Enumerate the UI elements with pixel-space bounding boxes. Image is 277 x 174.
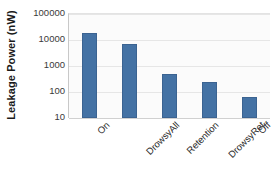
x-tick-label: DrowsyAll (145, 120, 182, 157)
bar-slot (230, 14, 270, 118)
bar-chart: Leakage Power (nW) 100000 10000 1000 100… (0, 0, 277, 174)
y-tick-label: 10000 (39, 34, 65, 44)
y-tick-label: 100 (49, 86, 65, 96)
bar[interactable] (122, 44, 137, 118)
y-axis-tick-labels: 100000 10000 1000 100 10 (22, 8, 68, 124)
y-axis-title-label: Leakage Power (nW) (5, 10, 17, 119)
y-tick-label: 1000 (44, 60, 65, 70)
bar[interactable] (82, 33, 97, 118)
x-tick-label: On (96, 120, 112, 136)
bar-slot (190, 14, 230, 118)
bar[interactable] (202, 82, 217, 118)
bars-layer (69, 14, 270, 118)
x-axis-tick-labels: OnDrowsyAllRetentionDrowsyRetOff (68, 118, 270, 174)
bar[interactable] (242, 97, 257, 118)
bar-slot (149, 14, 189, 118)
y-tick-label: 100000 (33, 8, 65, 18)
y-tick-label: 10 (54, 112, 65, 122)
bar-slot (69, 14, 109, 118)
y-axis-title: Leakage Power (nW) (0, 0, 22, 130)
x-tick-label: Retention (184, 120, 219, 155)
bar[interactable] (162, 74, 177, 118)
bar-slot (109, 14, 149, 118)
plot-area (68, 13, 270, 118)
